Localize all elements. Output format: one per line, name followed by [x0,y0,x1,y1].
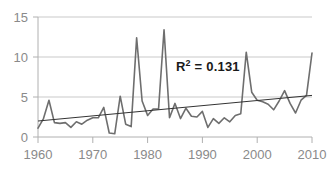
x-tick-label-2010: 2010 [289,148,333,161]
x-tick-label-1980: 1980 [125,148,171,161]
chart-container: 15 10 5 0 1960 1970 1980 1990 2000 2010 … [0,0,333,173]
trendline [38,95,312,121]
y-tick-label-10: 10 [2,51,28,64]
x-tick-label-1960: 1960 [15,148,61,161]
x-tick-label-2000: 2000 [234,148,280,161]
x-axis [38,137,312,143]
y-tick-label-5: 5 [2,91,28,104]
r-squared-value: = 0.131 [191,59,240,74]
gridlines [38,17,312,137]
x-tick-label-1990: 1990 [179,148,225,161]
y-tick-label-15: 15 [2,11,28,24]
y-axis [33,17,38,137]
r-squared-annotation: R2 = 0.131 [176,59,240,74]
r-squared-symbol: R [176,59,186,74]
y-tick-label-0: 0 [2,131,28,144]
x-tick-label-1970: 1970 [70,148,116,161]
data-series-line [38,30,312,134]
